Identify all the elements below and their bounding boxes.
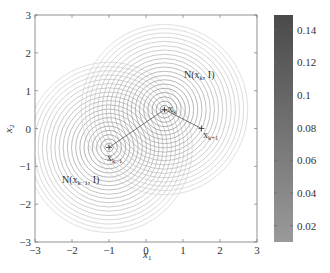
y-tick-label: 2 [26, 47, 32, 59]
y-tick-label: −1 [19, 160, 31, 172]
x-tick-label: −1 [103, 244, 115, 256]
colorbar-tick-label: 0.06 [297, 154, 317, 166]
x-axis-label: x1 [142, 248, 152, 262]
y-tick-label: −3 [19, 236, 31, 248]
colorbar-tick-label: 0.04 [297, 187, 317, 199]
y-tick-label: 1 [26, 85, 32, 97]
y-axis-label: x2 [2, 124, 16, 134]
colorbar-tick-label: 0.1 [297, 89, 311, 101]
plot-area [35, 15, 257, 242]
x-tick-label: 3 [254, 244, 260, 256]
colorbar [274, 15, 293, 242]
colorbar-tick-label: 0.14 [297, 24, 317, 36]
x-tick-label: 1 [180, 244, 186, 256]
colorbar-tick-label: 0.08 [297, 122, 317, 134]
contour-figure: −3−2−10123−3−2−10123 x1 x2 N(xk, I) N(xk… [0, 0, 330, 273]
y-tick-label: 0 [26, 123, 32, 135]
annotation-n-xk: N(xk, I) [184, 69, 214, 81]
colorbar-tick-label: 0.12 [297, 56, 316, 68]
y-tick-label: 3 [26, 9, 32, 21]
x-tick-label: 2 [217, 244, 223, 256]
y-tick-label: −2 [19, 198, 31, 210]
colorbar-tick-label: 0.02 [297, 220, 316, 232]
x-tick-label: −2 [66, 244, 78, 256]
